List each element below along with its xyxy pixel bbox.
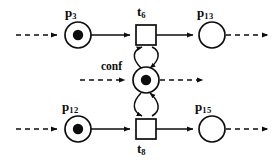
- place-conf[interactable]: [133, 67, 159, 93]
- place-p15[interactable]: [199, 116, 225, 142]
- token-dot: [73, 30, 83, 40]
- place-circle: [199, 22, 225, 48]
- label-p15: p15: [195, 100, 212, 115]
- label-t8-sub: 8: [141, 147, 146, 157]
- arc-conf-t6: [134, 47, 142, 68]
- arc-conf-t8: [150, 93, 158, 116]
- label-t6-sub: 6: [141, 10, 146, 20]
- label-p12-sub: 12: [69, 105, 79, 115]
- label-p3-sub: 3: [72, 11, 77, 21]
- place-p13[interactable]: [199, 22, 225, 48]
- place-p3[interactable]: [65, 22, 91, 48]
- transition-t6[interactable]: [136, 25, 156, 45]
- place-p12[interactable]: [65, 116, 91, 142]
- token-dot: [73, 124, 83, 134]
- transition-t8[interactable]: [136, 119, 156, 139]
- label-conf: conf: [101, 61, 122, 73]
- label-p3: p3: [65, 6, 77, 21]
- arc-t6-conf: [150, 47, 158, 68]
- place-circle: [199, 116, 225, 142]
- petri-net-diagram: p3 p13 conf p12 p15 t6 t8: [0, 0, 277, 166]
- label-p15-sub: 15: [202, 105, 212, 115]
- label-p13-sub: 13: [204, 11, 214, 21]
- label-p12: p12: [62, 100, 79, 115]
- label-t6: t6: [137, 5, 146, 20]
- arc-t8-conf: [134, 93, 142, 116]
- label-t8: t8: [137, 142, 146, 157]
- token-dot: [141, 75, 151, 85]
- label-p13: p13: [197, 6, 214, 21]
